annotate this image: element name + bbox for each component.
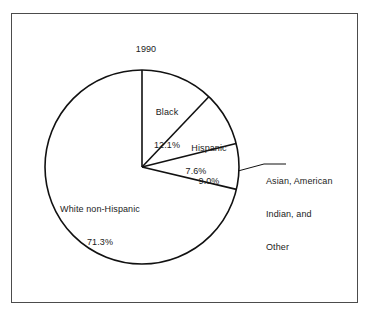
- slice-label-hispanic-value: 9.0%: [178, 176, 240, 187]
- figure-canvas: 1990 Black 12.1% Hispanic 9.0% 7.6% Whit…: [0, 0, 371, 316]
- slice-label-white-name: White non-Hispanic: [40, 204, 160, 215]
- slice-label-hispanic-name: Hispanic: [178, 143, 240, 154]
- callout-line-1: Asian, American: [266, 176, 362, 187]
- callout-line-3: Other: [266, 242, 362, 253]
- slice-label-white-value: 71.3%: [40, 237, 160, 248]
- slice-label-hispanic: Hispanic 9.0%: [178, 121, 240, 209]
- slice-label-black-name: Black: [137, 107, 197, 118]
- slice-label-other-value: 7.6%: [172, 166, 220, 177]
- slice-callout-other: Asian, American Indian, and Other: [266, 154, 362, 275]
- slice-label-white: White non-Hispanic 71.3%: [40, 182, 160, 270]
- chart-title: 1990: [116, 44, 176, 55]
- callout-line-2: Indian, and: [266, 209, 362, 220]
